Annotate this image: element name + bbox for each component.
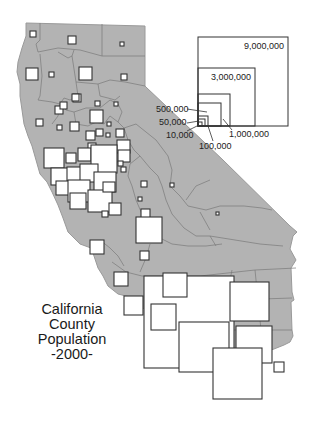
title-line-2: County [22, 317, 122, 332]
legend-label-3000000: 3,000,000 [211, 72, 251, 82]
legend-label-500000: 500,000 [156, 104, 189, 114]
title-line-4: -2000- [22, 347, 122, 362]
legend-label-1000000: 1,000,000 [229, 129, 269, 139]
legend-label-9000000: 9,000,000 [244, 41, 284, 51]
legend-label-100000: 100,000 [199, 141, 232, 151]
map-title: California County Population -2000- [22, 302, 122, 362]
legend-label-10000: 10,000 [166, 130, 194, 140]
legend-label-50000: 50,000 [159, 117, 187, 127]
title-line-1: California [22, 302, 122, 317]
title-line-3: Population [22, 332, 122, 347]
map-figure: 9,000,000 3,000,000 1,000,000 500,000 10… [0, 0, 334, 424]
